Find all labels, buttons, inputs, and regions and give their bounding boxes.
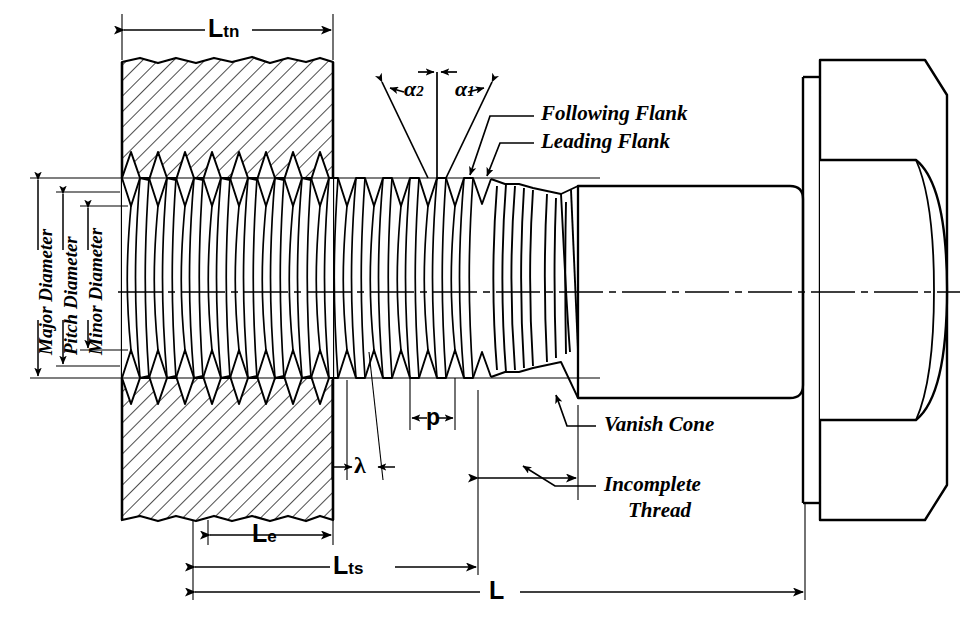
dim-label-lead-angle: λ [354,453,366,477]
label-pitch-diameter: Pitch Diameter [61,236,80,355]
leader-leading-flank [487,143,534,176]
label-vanish-cone: Vanish Cone [604,414,714,435]
dim-label-ltn: Ltn [208,16,239,41]
dim-label-overall: L [489,578,504,603]
vanish-cone [491,179,578,398]
label-major-diameter: Major Diameter [36,229,55,355]
diagram-linework [0,0,969,631]
label-incomplete-thread-line2: Thread [628,500,691,521]
thread-terminology-diagram: Ltn Major Diameter Pitch Diameter Minor … [0,0,969,631]
label-following-flank: Following Flank [541,103,687,124]
label-leading-flank: Leading Flank [541,131,670,152]
label-incomplete-thread: Incomplete [604,474,701,495]
dim-label-le: Le [252,521,277,546]
leader-following-flank [470,116,534,175]
dim-label-pitch: p [426,406,440,429]
flank-angle-lines [382,72,492,180]
leader-vanish-cone [556,395,596,426]
dim-label-lts: Lts [333,553,363,578]
label-alpha1: α1 [455,78,475,100]
label-minor-diameter: Minor Diameter [86,228,105,355]
label-alpha2: α2 [404,78,424,100]
leader-incomplete-thread [523,466,596,486]
hex-head [803,60,947,520]
